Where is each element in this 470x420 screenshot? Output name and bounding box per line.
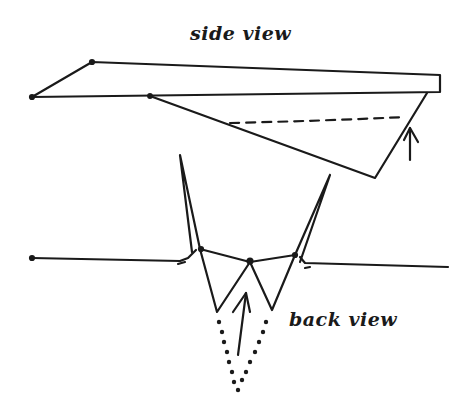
- side-wing-outline: [32, 62, 440, 97]
- back-left-wing: [32, 250, 196, 264]
- back-right-winglet: [295, 175, 330, 262]
- side-dashed-fold-line: [230, 117, 405, 123]
- side-view-label: side view: [190, 22, 291, 44]
- side-view-drawing: [30, 60, 440, 178]
- back-view-label: back view: [289, 308, 397, 330]
- back-right-wing: [300, 257, 448, 268]
- back-arrow-up-icon: [233, 293, 250, 355]
- side-keel-outline: [150, 93, 427, 178]
- paper-airplane-diagram: [0, 0, 470, 420]
- back-dotted-keel: [217, 320, 268, 392]
- side-arrow-up-icon: [404, 128, 418, 160]
- back-left-winglet: [180, 155, 200, 252]
